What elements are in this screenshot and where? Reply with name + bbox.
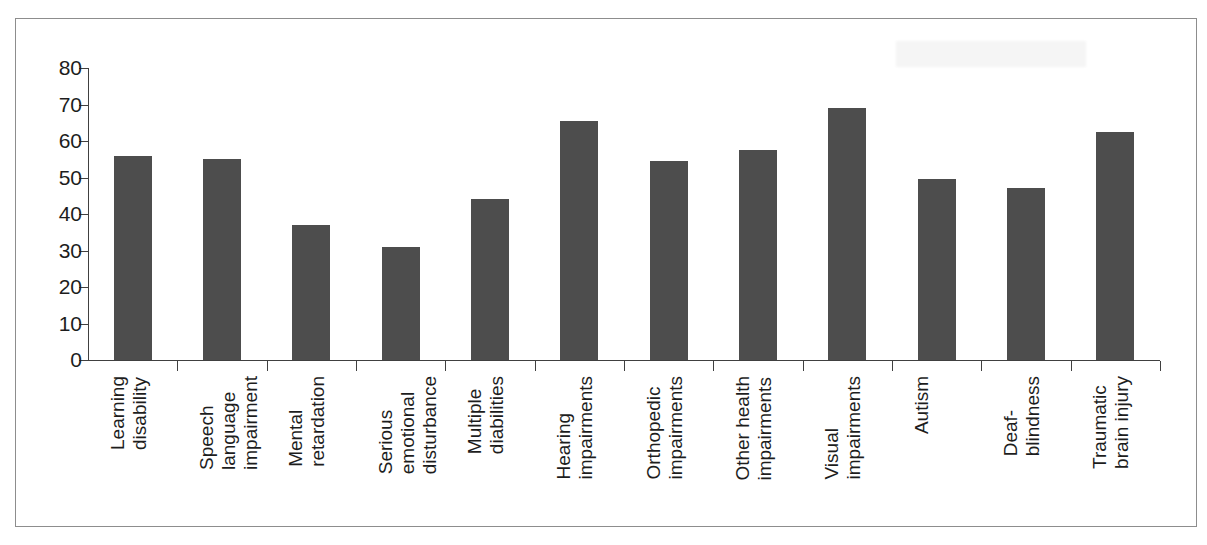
x-category-label: Orthopedic impairments bbox=[643, 376, 687, 479]
bar bbox=[292, 225, 330, 360]
y-tick-label: 80 bbox=[59, 57, 82, 78]
x-category-label: Traumatic brain injury bbox=[1089, 376, 1133, 469]
x-category-label-text: Speech language impairment bbox=[196, 376, 262, 470]
y-tick-label: 40 bbox=[59, 203, 82, 224]
y-tick-label: 10 bbox=[59, 313, 82, 334]
x-tick-mark bbox=[713, 361, 714, 371]
x-category-label: Autism bbox=[911, 376, 933, 434]
x-category-label: Visual impairments bbox=[821, 376, 865, 479]
x-category-label: Multiple diabilities bbox=[464, 376, 508, 454]
y-tick-label: 50 bbox=[59, 167, 82, 188]
x-category-label: Speech language impairment bbox=[196, 376, 262, 470]
x-tick-mark bbox=[1160, 361, 1161, 371]
x-category-label: Other health impairments bbox=[732, 376, 776, 481]
x-tick-mark bbox=[1071, 361, 1072, 371]
x-tick-mark bbox=[981, 361, 982, 371]
x-category-label-text: Visual impairments bbox=[821, 376, 865, 479]
bar bbox=[739, 150, 777, 360]
x-category-label-text: Traumatic brain injury bbox=[1089, 376, 1133, 469]
x-tick-mark bbox=[803, 361, 804, 371]
bar bbox=[382, 247, 420, 360]
x-tick-mark bbox=[445, 361, 446, 371]
y-tick-label: 70 bbox=[59, 94, 82, 115]
x-category-label-text: Autism bbox=[911, 376, 933, 434]
x-tick-mark bbox=[177, 361, 178, 371]
x-category-label-text: Mental retardation bbox=[285, 376, 329, 467]
x-category-label-text: Deaf- blindness bbox=[1000, 376, 1044, 456]
x-category-label-text: Serious emotional disturbance bbox=[375, 376, 441, 474]
y-tick-label: 60 bbox=[59, 130, 82, 151]
x-tick-mark bbox=[267, 361, 268, 371]
bar bbox=[1096, 132, 1134, 360]
bar bbox=[560, 121, 598, 360]
y-tick-label: 30 bbox=[59, 240, 82, 261]
bar bbox=[1007, 188, 1045, 360]
x-category-label: Hearing impairments bbox=[553, 376, 597, 479]
x-category-label-text: Multiple diabilities bbox=[464, 376, 508, 454]
y-tick-label: 20 bbox=[59, 276, 82, 297]
x-category-label-text: Orthopedic impairments bbox=[643, 376, 687, 479]
plot-area: 01020304050607080 Learning disabilitySpe… bbox=[88, 62, 1160, 360]
x-tick-mark bbox=[892, 361, 893, 371]
x-tick-mark bbox=[535, 361, 536, 371]
x-category-label: Deaf- blindness bbox=[1000, 376, 1044, 456]
x-category-label-text: Hearing impairments bbox=[553, 376, 597, 479]
bar bbox=[203, 159, 241, 360]
x-category-label: Mental retardation bbox=[285, 376, 329, 467]
x-tick-mark bbox=[624, 361, 625, 371]
y-tick-label: 0 bbox=[70, 349, 82, 370]
bar bbox=[650, 161, 688, 360]
x-tick-mark bbox=[356, 361, 357, 371]
bar bbox=[114, 156, 152, 360]
bar bbox=[471, 199, 509, 360]
x-category-label: Learning disability bbox=[107, 376, 151, 450]
x-category-label-text: Learning disability bbox=[107, 376, 151, 450]
figure-canvas: 01020304050607080 Learning disabilitySpe… bbox=[0, 0, 1207, 545]
y-axis-line bbox=[88, 68, 89, 360]
x-category-label: Serious emotional disturbance bbox=[375, 376, 441, 474]
bar bbox=[828, 108, 866, 360]
bar bbox=[918, 179, 956, 360]
x-category-label-text: Other health impairments bbox=[732, 376, 776, 481]
